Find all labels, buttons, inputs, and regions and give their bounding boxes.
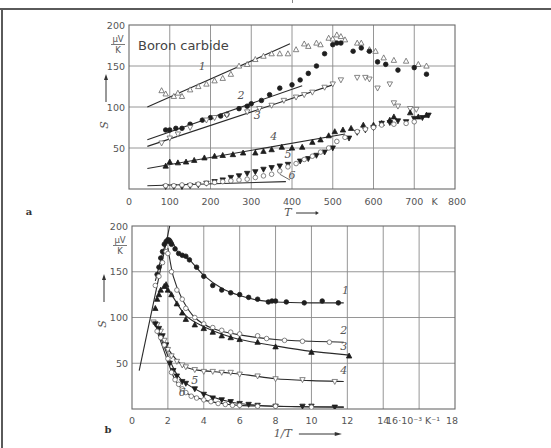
- data-point-filled-triangle-down: [192, 387, 197, 392]
- chart-b-seebeck-vs-inverse-temperature: 0246810121416·10⁻³ K⁻¹1850100150200μVKS1…: [0, 0, 551, 448]
- data-point-filled-circle: [210, 283, 215, 288]
- data-point-filled-circle: [219, 288, 224, 293]
- data-point-open-circle: [223, 402, 228, 407]
- data-point-filled-circle: [157, 265, 162, 270]
- y-tick-label: 50: [116, 358, 128, 369]
- curve-number-label: 5: [191, 374, 198, 387]
- data-point-filled-triangle-up: [255, 339, 260, 344]
- y-axis-label-s: S: [96, 320, 109, 328]
- y-tick-label: 100: [110, 312, 128, 323]
- data-point-open-triangle-down: [183, 365, 188, 370]
- data-point-open-circle: [255, 404, 260, 409]
- data-point-open-triangle-down: [201, 369, 206, 374]
- data-point-open-circle: [219, 328, 224, 333]
- x-tick-label: 2: [165, 415, 171, 426]
- curve-number-label: 4: [339, 364, 347, 377]
- data-point-filled-triangle-up: [174, 301, 179, 306]
- data-point-open-circle: [166, 356, 171, 361]
- data-point-open-circle: [201, 398, 206, 403]
- data-point-open-circle: [157, 274, 162, 279]
- y-axis-arrow-head: [102, 274, 106, 280]
- data-point-open-triangle-down: [332, 379, 337, 384]
- chart-b-y-axis-label: S: [96, 274, 109, 328]
- data-point-open-circle: [180, 297, 185, 302]
- panel-label-b: b: [105, 424, 112, 435]
- data-point-filled-circle: [173, 247, 178, 252]
- data-point-open-circle: [153, 283, 158, 288]
- data-point-open-circle: [264, 336, 269, 341]
- curve-number-label: 6: [179, 386, 186, 399]
- data-point-filled-circle: [201, 274, 206, 279]
- data-point-open-circle: [300, 339, 305, 344]
- data-point-filled-circle: [336, 301, 341, 306]
- data-point-open-circle: [237, 403, 242, 408]
- data-point-open-circle: [273, 404, 278, 409]
- data-point-open-circle: [282, 338, 287, 343]
- data-point-open-circle: [255, 334, 260, 339]
- chart-b-y-tick-labels: 50100150200μVK: [110, 221, 128, 369]
- y-tick-label: 150: [110, 266, 128, 277]
- y-unit-numerator: μV: [114, 235, 125, 245]
- data-point-filled-triangle-up: [180, 310, 185, 315]
- x-tick-label: 0: [129, 415, 135, 426]
- data-point-open-circle: [309, 405, 314, 410]
- fit-curve: [168, 248, 344, 342]
- y-unit-denominator: K: [117, 246, 123, 256]
- x-tick-label: 4: [201, 415, 207, 426]
- data-point-filled-circle: [284, 300, 289, 305]
- data-point-open-circle: [237, 332, 242, 337]
- data-point-filled-circle: [194, 265, 199, 270]
- data-point-open-circle: [194, 396, 199, 401]
- data-point-open-circle: [160, 260, 165, 265]
- data-point-open-circle: [193, 315, 198, 320]
- chart-b-x-axis-label: 1/T: [274, 427, 342, 440]
- data-point-open-circle: [216, 401, 221, 406]
- data-point-filled-circle: [273, 299, 278, 304]
- data-point-filled-circle: [169, 242, 174, 247]
- data-point-open-circle: [155, 329, 160, 334]
- data-point-open-circle: [158, 335, 163, 340]
- data-point-filled-circle: [158, 256, 163, 261]
- x-axis-arrow-head: [335, 432, 342, 436]
- x-tick-label: 18: [446, 415, 458, 426]
- data-point-open-circle: [209, 399, 214, 404]
- x-tick-label: 8: [273, 415, 279, 426]
- data-point-open-circle: [327, 340, 332, 345]
- data-point-open-circle: [162, 343, 167, 348]
- curve-number-label: 2: [339, 324, 347, 337]
- chart-b-x-tick-labels: 0246810121416·10⁻³ K⁻¹18: [129, 415, 458, 426]
- data-point-open-circle: [169, 370, 174, 375]
- x-tick-label: 12: [341, 415, 353, 426]
- chart-b-plot-area: [139, 226, 352, 410]
- data-point-filled-circle: [228, 290, 233, 295]
- data-point-open-circle: [169, 269, 174, 274]
- data-point-filled-circle: [237, 292, 242, 297]
- x-tick-label: 10: [305, 415, 317, 426]
- data-point-filled-circle: [255, 297, 260, 302]
- data-point-filled-circle: [184, 254, 189, 259]
- curve-number-label: 3: [340, 340, 347, 353]
- data-point-open-circle: [228, 330, 233, 335]
- data-point-open-circle: [189, 394, 194, 399]
- curve-number-label: 1: [342, 284, 349, 297]
- data-point-filled-circle: [246, 295, 251, 300]
- data-point-open-circle: [184, 306, 189, 311]
- data-point-open-circle: [175, 288, 180, 293]
- x-tick-label-with-unit: 16·10⁻³ K⁻¹: [386, 415, 440, 426]
- data-point-open-circle: [173, 377, 178, 382]
- data-point-filled-triangle-up: [153, 305, 158, 310]
- y-tick-label: 200: [110, 221, 128, 232]
- data-point-filled-circle: [187, 258, 192, 263]
- data-point-filled-circle: [302, 301, 307, 306]
- data-point-filled-circle: [320, 299, 325, 304]
- x-tick-label: 6: [237, 415, 243, 426]
- data-point-open-circle: [230, 403, 235, 408]
- series-3: [153, 282, 352, 358]
- fit-curve: [155, 238, 343, 303]
- series-1: [155, 237, 344, 305]
- data-point-open-circle: [166, 251, 171, 256]
- x-axis-label-inverse-t: 1/T: [274, 427, 294, 440]
